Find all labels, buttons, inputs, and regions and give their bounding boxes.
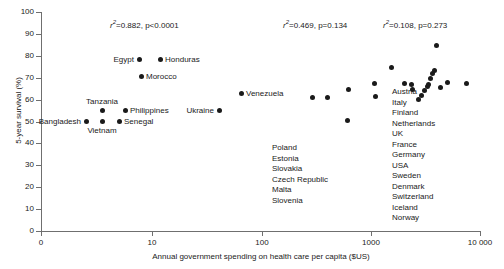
data-point	[389, 65, 394, 70]
data-point-tanzania	[100, 108, 105, 113]
data-point	[409, 82, 414, 87]
y-tick-mark	[36, 165, 41, 166]
data-point	[438, 85, 443, 90]
y-tick-mark	[36, 100, 41, 101]
data-point	[434, 43, 439, 48]
country-list-item: France	[392, 140, 435, 151]
country-list-item: Sweden	[392, 171, 435, 182]
country-list-item: Switzerland	[392, 192, 435, 203]
data-point	[346, 87, 351, 92]
y-tick-mark	[36, 187, 41, 188]
x-tick-mark	[152, 232, 153, 236]
data-point	[464, 81, 469, 86]
data-point-morocco	[139, 74, 144, 79]
country-list-item: Netherlands	[392, 119, 435, 130]
data-point	[372, 81, 377, 86]
data-point	[432, 68, 437, 73]
x-tick-label: 10	[148, 238, 157, 247]
country-list-item: Denmark	[392, 182, 435, 193]
data-point	[310, 95, 315, 100]
country-list-item: Norway	[392, 213, 435, 224]
y-tick-mark	[36, 143, 41, 144]
low-income-stats: r2=0.882, p<0.0001	[110, 18, 179, 30]
point-label-bangladesh: Bangladesh	[39, 117, 81, 126]
x-tick-mark	[41, 232, 42, 236]
x-tick-label: 100	[255, 238, 268, 247]
x-axis-title: Annual government spending on health car…	[41, 252, 481, 261]
country-list-item: Iceland	[392, 203, 435, 214]
data-point	[445, 80, 450, 85]
scatter-plot-figure: 0102030405060708090100 010100100010 000 …	[0, 0, 504, 269]
x-tick-label: 10 000	[468, 238, 492, 247]
country-list-item: Poland	[272, 143, 328, 154]
data-point	[345, 118, 350, 123]
y-tick-label: 0	[6, 227, 34, 235]
point-label-venezuela: Venezuela	[246, 89, 283, 98]
data-point-ukraine	[217, 108, 222, 113]
country-list-item: UK	[392, 129, 435, 140]
point-label-tanzania: Tanzania	[86, 97, 118, 106]
data-point-vietnam	[100, 119, 105, 124]
middle-income-stats: r2=0.469, p=0.134	[283, 18, 347, 30]
data-point-honduras	[158, 57, 163, 62]
point-label-senegal: Senegal	[124, 117, 153, 126]
data-point	[428, 76, 433, 81]
point-label-vietnam: Vietnam	[87, 126, 116, 135]
data-point-philippines	[123, 108, 128, 113]
x-tick-mark	[480, 232, 481, 236]
y-tick-mark	[36, 12, 41, 13]
country-list-item: Finland	[392, 108, 435, 119]
data-point-bangladesh	[84, 119, 89, 124]
y-tick-mark	[36, 56, 41, 57]
data-point-venezuela	[239, 91, 244, 96]
y-tick-mark	[36, 209, 41, 210]
country-list-item: USA	[392, 161, 435, 172]
x-tick-label: 0	[39, 238, 43, 247]
point-label-ukraine: Ukraine	[186, 106, 214, 115]
point-label-honduras: Honduras	[165, 55, 200, 64]
country-list-item: Italy	[392, 98, 435, 109]
x-tick-mark	[371, 232, 372, 236]
data-point-egypt	[137, 57, 142, 62]
data-point	[402, 81, 407, 86]
y-tick-label: 10	[6, 205, 34, 213]
country-list-item: Czech Republic	[272, 175, 328, 186]
point-label-morocco: Morocco	[146, 72, 177, 81]
x-axis-line	[41, 231, 481, 232]
x-tick-mark	[262, 232, 263, 236]
high-income-stats: r2=0.108, p=0.273	[383, 18, 447, 30]
country-list-item: Austria	[392, 87, 435, 98]
point-label-philippines: Philippines	[130, 106, 169, 115]
data-point-senegal	[117, 119, 122, 124]
country-list-item: Slovakia	[272, 164, 328, 175]
data-point	[325, 95, 330, 100]
data-point	[373, 94, 378, 99]
country-list-item: Slovenia	[272, 196, 328, 207]
data-point	[426, 82, 431, 87]
y-tick-mark	[36, 78, 41, 79]
x-tick-label: 1000	[362, 238, 380, 247]
high-income-country-list: AustriaItalyFinlandNetherlandsUKFranceGe…	[392, 87, 435, 224]
middle-income-country-list: PolandEstoniaSlovakiaCzech RepublicMalta…	[272, 143, 328, 206]
y-tick-mark	[36, 34, 41, 35]
country-list-item: Estonia	[272, 154, 328, 165]
country-list-item: Germany	[392, 150, 435, 161]
y-axis-title: 5-year survival (%)	[14, 31, 23, 191]
y-tick-label: 100	[6, 8, 34, 16]
point-label-egypt: Egypt	[114, 55, 134, 64]
country-list-item: Malta	[272, 185, 328, 196]
